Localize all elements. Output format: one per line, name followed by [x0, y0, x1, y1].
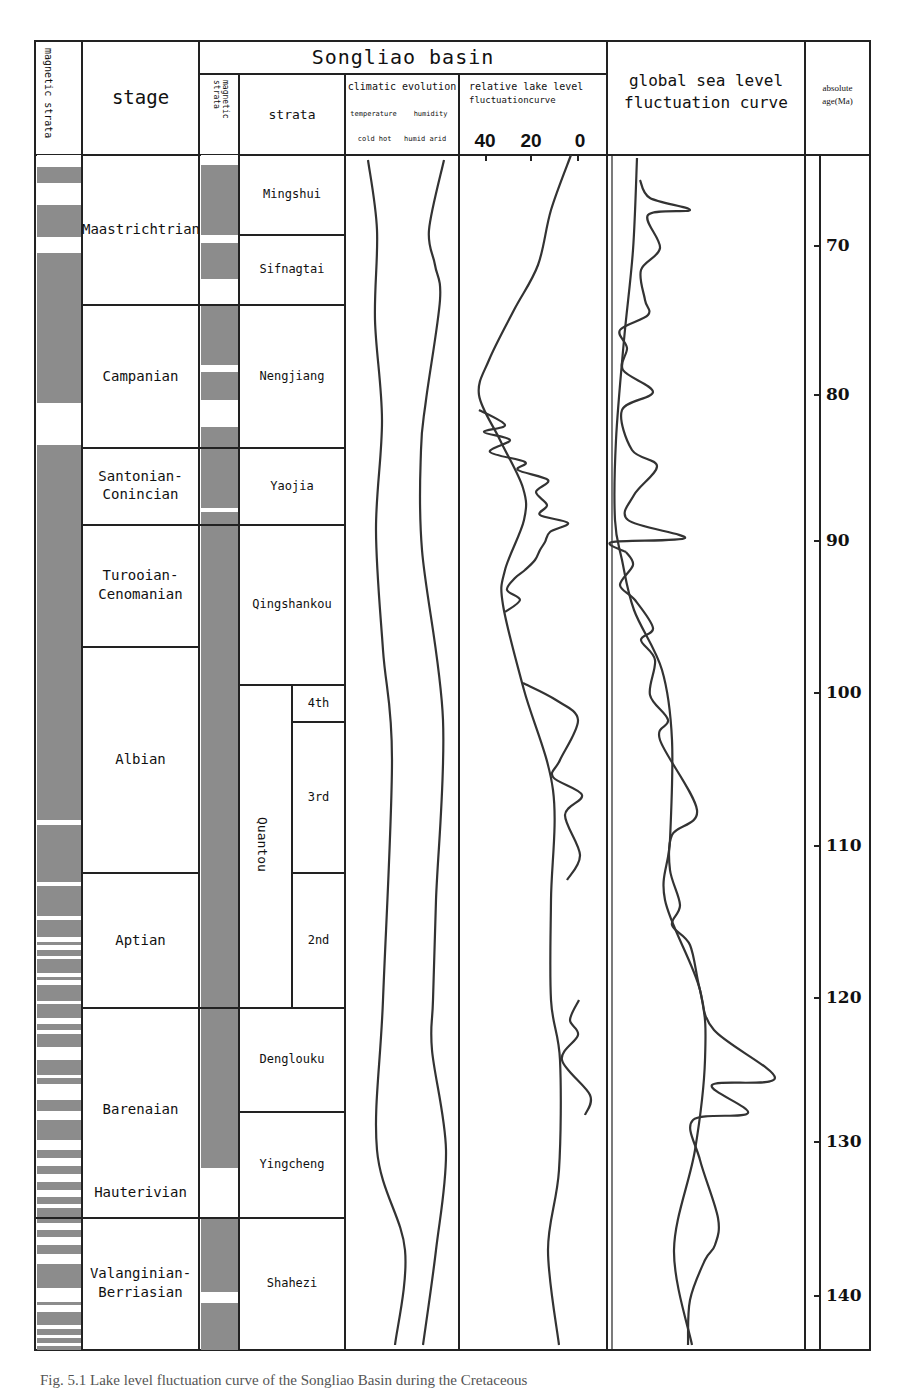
stage-label: Turooian- Cenomanian — [82, 566, 199, 604]
curves — [368, 155, 775, 1345]
climatic-scale-subheader: cold hot humid arid — [345, 135, 459, 144]
age-tick-label: 80 — [826, 383, 866, 406]
magnetic-strata-header: magnetic strata — [43, 48, 54, 152]
strata-label: Sifnagtai — [239, 261, 345, 277]
stage-label: Albian — [82, 750, 199, 769]
strata-label: Yingcheng — [239, 1156, 345, 1172]
stage-label: Maastrichtrian — [82, 220, 199, 239]
age-tick-label: 140 — [826, 1284, 866, 1307]
climatic-evolution-header: climatic evolution — [345, 80, 459, 94]
quantou-formation-label: Quantou — [255, 817, 270, 872]
magnetic-strata-column — [37, 155, 81, 1350]
lake-tick-0: 0 — [568, 128, 592, 154]
quantou-member-label: 3rd — [292, 789, 345, 805]
figure-caption: Fig. 5.1 Lake level fluctuation curve of… — [40, 1372, 527, 1389]
age-tick-label: 70 — [826, 234, 866, 257]
basin-title: Songliao basin — [199, 44, 607, 71]
strata-label: Qingshankou — [239, 596, 345, 612]
stage-label: Campanian — [82, 367, 199, 386]
strata-label: Denglouku — [239, 1051, 345, 1067]
absolute-age-header-line2: age(Ma) — [805, 95, 870, 107]
age-tick-label: 90 — [826, 529, 866, 552]
stage-label: Aptian — [82, 931, 199, 950]
strata-label: Nengjiang — [239, 368, 345, 384]
age-tick-label: 100 — [826, 681, 866, 704]
global-sea-level-smooth-curve — [614, 158, 705, 1345]
stage-label: Barenaian — [82, 1100, 199, 1119]
humidity-curve — [420, 160, 446, 1345]
quantou-member-label: 2nd — [292, 932, 345, 948]
strata-label: Mingshui — [239, 186, 345, 202]
age-tick-label: 120 — [826, 986, 866, 1009]
age-tick-label: 110 — [826, 834, 866, 857]
temperature-curve — [368, 160, 406, 1345]
strata-header: strata — [239, 106, 345, 124]
global-sea-level-header-line1: global sea level — [607, 70, 805, 92]
temperature-subheader: temperature — [345, 110, 402, 119]
strata-label: Shahezi — [239, 1275, 345, 1291]
global-sea-level-detail-curve — [609, 180, 690, 552]
lake-level-oscillation-curve — [562, 1000, 591, 1115]
lake-tick-40: 40 — [470, 128, 500, 154]
strata-label: Yaojia — [239, 478, 345, 494]
stage-label: Hauterivian — [82, 1183, 199, 1202]
lake-tick-20: 20 — [516, 128, 546, 154]
age-tick-label: 130 — [826, 1130, 866, 1153]
stage-header: stage — [82, 85, 199, 111]
global-sea-level-header-line2: fluctuation curve — [607, 92, 805, 114]
lake-level-oscillations-curve — [479, 410, 568, 612]
stage-label: Santonian- Conincian — [82, 467, 199, 505]
lake-level-smooth-curve — [479, 155, 571, 1345]
global-sea-level-detail-curve — [620, 552, 775, 1345]
lake-level-header-line2: fluctuationcurve — [461, 94, 607, 106]
basin-magnetic-strata-column — [201, 155, 238, 1350]
lake-level-header-line1: relative lake level — [461, 80, 607, 94]
quantou-member-label: 4th — [292, 695, 345, 711]
basin-magnetic-strata-header: magnetic strata — [212, 80, 230, 152]
absolute-age-header-line1: absolute — [805, 82, 870, 94]
stage-label: Valanginian- Berriasian — [82, 1264, 199, 1302]
humidity-subheader: humidity — [402, 110, 459, 119]
